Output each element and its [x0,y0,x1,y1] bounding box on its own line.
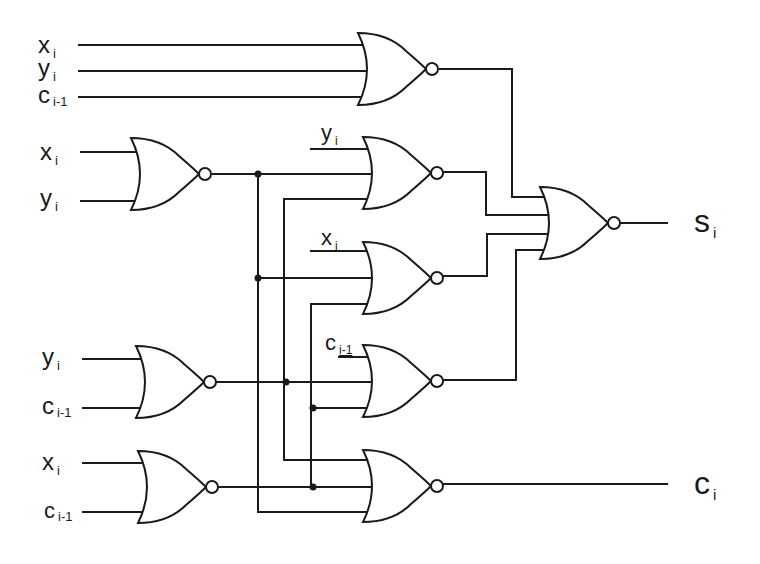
nor-gate-g8 [363,450,443,522]
input-label: yi [321,120,338,148]
input-label: ci-1 [44,498,72,524]
nor-gate-sum [540,187,620,259]
junction-dot [255,171,262,178]
input-label: yi [40,184,58,214]
output-label-sum: si [694,203,716,241]
nor-gate-g5 [136,346,216,418]
nor-gate-g1 [358,33,438,105]
nor-gate-g7 [138,451,218,523]
input-label: ci-1 [325,330,353,357]
junction-dot [255,275,262,282]
input-label: xi [321,225,338,253]
nor-full-adder-circuit: xi yi ci-1 xi yi yi xi yi ci-1 ci-1 xi c… [0,0,760,564]
junction-dot [310,405,317,412]
nor-gate-g4 [363,242,443,314]
input-label: yi [42,343,60,373]
junction-dot [283,379,290,386]
input-label: xi [40,138,58,168]
input-label: ci-1 [42,392,71,420]
junctions [255,171,317,491]
nor-gate-g3 [363,137,443,209]
junction-dot [310,484,317,491]
gates [131,33,620,523]
output-label-carry: ci [694,465,716,503]
nor-gate-g6 [363,345,443,417]
nor-gate-g2 [131,138,211,210]
input-label: xi [42,448,60,478]
input-label: ci-1 [38,81,67,109]
